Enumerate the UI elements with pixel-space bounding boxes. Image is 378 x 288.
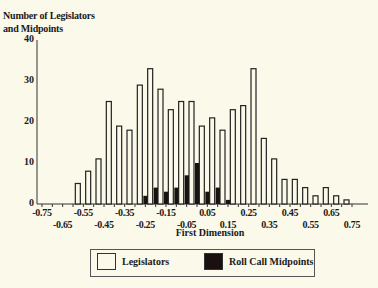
x-tick-label: 0.55 — [291, 219, 331, 230]
x-tick-label: -0.45 — [84, 219, 124, 230]
legislators-bar — [117, 126, 122, 204]
legislators-bar — [179, 102, 184, 205]
legislators-bar — [86, 171, 91, 204]
legislators-bar — [220, 130, 225, 204]
legislators-bar — [334, 196, 339, 204]
midpoints-swatch-icon — [204, 253, 223, 270]
x-tick-label: 0.65 — [311, 207, 351, 218]
legislators-bar — [168, 110, 173, 204]
legislators-bar — [137, 85, 142, 204]
legislators-bar — [127, 130, 132, 204]
legislators-bar — [241, 106, 246, 204]
legislators-bar — [272, 159, 277, 204]
legend-label: Legislators — [122, 256, 169, 267]
legend: Legislators Roll Call Midpoints — [90, 249, 315, 277]
legislators-bar — [282, 179, 287, 204]
legislators-bar — [106, 102, 111, 205]
legend-label: Roll Call Midpoints — [229, 256, 313, 267]
legislators-bar — [261, 138, 266, 204]
x-tick-label: 0.25 — [229, 207, 269, 218]
x-tick-label: 0.45 — [270, 207, 310, 218]
x-tick-label: -0.75 — [22, 207, 62, 218]
legend-item-legislators: Legislators — [97, 253, 169, 270]
x-axis-title: First Dimension — [160, 227, 260, 238]
legislators-bar — [210, 118, 215, 204]
plot-area — [0, 0, 378, 288]
legislators-bar — [251, 69, 256, 204]
legislators-bar — [96, 159, 101, 204]
legislators-swatch-icon — [97, 253, 116, 270]
x-tick-label: 0.05 — [187, 207, 227, 218]
x-tick-label: -0.35 — [105, 207, 145, 218]
legend-item-roll-call-midpoints: Roll Call Midpoints — [204, 253, 313, 270]
legislators-bar — [303, 188, 308, 204]
x-tick-label: -0.65 — [43, 219, 83, 230]
legislators-bar — [75, 184, 80, 205]
legislators-bar — [323, 188, 328, 204]
x-tick-label: -0.55 — [63, 207, 103, 218]
x-tick-label: 0.75 — [332, 219, 372, 230]
legislators-bar — [189, 102, 194, 205]
legislators-bar — [344, 200, 349, 204]
legislators-bar — [158, 89, 163, 204]
legislators-bar — [313, 196, 318, 204]
legislators-bar — [148, 69, 153, 204]
legislators-bar — [230, 110, 235, 204]
legislators-bar — [199, 126, 204, 204]
x-tick-label: -0.15 — [146, 207, 186, 218]
legislators-bar — [292, 179, 297, 204]
bars — [75, 69, 349, 204]
